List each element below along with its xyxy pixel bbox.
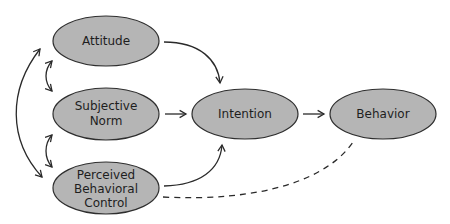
node-subjective-norm-label-1: Subjective [75,99,138,113]
tpb-diagram: Attitude Subjective Norm Perceived Behav… [0,0,450,224]
node-attitude: Attitude [53,16,159,66]
svg-text:Behavioral: Behavioral [74,182,138,196]
svg-text:Perceived: Perceived [77,168,135,182]
node-pbc-label-1: Perceived [77,168,135,182]
node-subjective-norm: Subjective Norm [53,88,159,140]
edge-attitude-pbc-bidirectional [16,49,42,177]
svg-text:Norm: Norm [90,114,123,128]
edge-attitude-to-intention [164,42,220,83]
svg-text:Subjective: Subjective [75,99,138,113]
node-pbc-label-3: Control [84,196,127,210]
node-attitude-label: Attitude [82,34,130,48]
svg-text:Intention: Intention [218,107,272,121]
node-subjective-norm-label-2: Norm [90,114,123,128]
edge-pbc-to-behavior-dashed [163,139,355,198]
edge-attitude-norm-bidirectional [46,61,52,91]
svg-text:Attitude: Attitude [82,34,130,48]
edge-norm-pbc-bidirectional [46,135,52,167]
node-intention-label: Intention [218,107,272,121]
node-perceived-behavioral-control: Perceived Behavioral Control [53,162,159,214]
node-behavior-label: Behavior [356,107,409,121]
node-intention: Intention [192,89,298,139]
edge-pbc-to-intention [164,145,222,186]
node-behavior: Behavior [330,89,436,139]
svg-text:Control: Control [84,196,127,210]
node-pbc-label-2: Behavioral [74,182,138,196]
svg-text:Behavior: Behavior [356,107,409,121]
